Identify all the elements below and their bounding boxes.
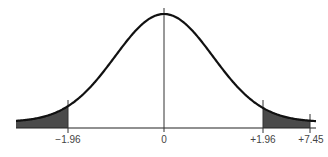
normal-curve: [16, 14, 316, 121]
tick-label-plus-7-45: +7.45: [298, 134, 323, 145]
tick-label-zero: 0: [161, 134, 167, 145]
tick-label-minus-1-96: −1.96: [55, 134, 80, 145]
tick-label-plus-1-96: +1.96: [250, 134, 275, 145]
